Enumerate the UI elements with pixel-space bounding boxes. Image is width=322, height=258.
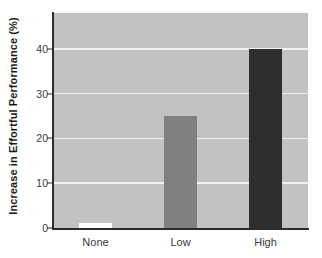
y-tick-mark — [47, 183, 53, 184]
y-tick-label: 20 — [26, 132, 48, 144]
x-tick-label-high: High — [254, 236, 277, 248]
x-tick-label-none: None — [82, 236, 108, 248]
plot-area — [53, 13, 308, 228]
y-axis-label-container: Increase in Effortful Performance (%) — [0, 0, 26, 232]
bar-chart-figure: Increase in Effortful Performance (%) 01… — [0, 0, 322, 258]
y-tick-label: 0 — [26, 222, 48, 234]
x-axis-spine — [52, 228, 309, 230]
y-axis-label: Increase in Effortful Performance (%) — [7, 17, 19, 214]
bar-high — [249, 49, 282, 228]
bar-low — [164, 116, 197, 228]
y-tick-mark — [47, 48, 53, 49]
y-tick-label: 30 — [26, 88, 48, 100]
y-tick-label: 10 — [26, 177, 48, 189]
x-tick-label-low: Low — [170, 236, 190, 248]
y-tick-mark — [47, 228, 53, 229]
y-axis-spine — [52, 12, 54, 229]
y-tick-mark — [47, 93, 53, 94]
y-tick-mark — [47, 138, 53, 139]
y-tick-label: 40 — [26, 43, 48, 55]
y-axis-tick-labels: 010203040 — [24, 0, 48, 258]
